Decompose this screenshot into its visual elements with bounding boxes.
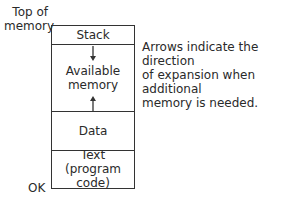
arrow-up-icon (88, 95, 98, 111)
note-line1: Arrows indicate the direction (142, 40, 302, 68)
arrow-down-icon (88, 46, 98, 62)
data-label: Data (79, 124, 108, 138)
data-segment: Data (52, 112, 134, 151)
memory-box: Stack Available memory Data Text (progra… (51, 25, 135, 189)
stack-segment: Stack (52, 26, 134, 45)
top-of-memory-label: Top of memory (4, 5, 48, 33)
note-line2: of expansion when additional (142, 68, 302, 96)
top-label-line2: memory (4, 19, 48, 33)
available-label-line2: memory (68, 78, 118, 92)
note-line3: memory is needed. (142, 96, 302, 110)
text-label-line2: (program code) (52, 162, 134, 190)
arrow-explanation-note: Arrows indicate the direction of expansi… (142, 40, 302, 110)
top-label-line1: Top of (4, 5, 48, 19)
available-label-line1: Available (66, 64, 120, 78)
text-segment: Text (program code) (52, 151, 134, 187)
bottom-label: OK (28, 181, 45, 195)
available-memory-segment: Available memory (52, 45, 134, 112)
text-label-line1: Text (81, 148, 105, 162)
stack-label: Stack (76, 28, 109, 42)
